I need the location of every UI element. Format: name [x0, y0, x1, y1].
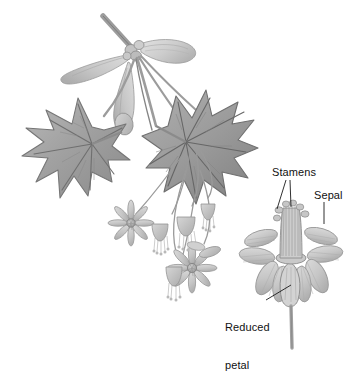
- bud-3-body: [201, 204, 215, 220]
- label-stamens: Stamens: [272, 166, 316, 179]
- bud-2-body: [177, 217, 195, 236]
- bud-4-anthers: [167, 296, 182, 302]
- drooping-bud-1: [152, 224, 170, 256]
- open-flower-left: [108, 200, 154, 246]
- label-reduced-petal-line1: Reduced: [225, 321, 270, 334]
- seed-knob-d: [123, 52, 131, 60]
- stem-branch-4: [136, 59, 152, 130]
- bud-1-body: [152, 224, 168, 241]
- main-stem-shade: [103, 16, 132, 48]
- label-reduced-petal-line2: petal: [225, 359, 270, 372]
- samara-wing-right: [140, 40, 196, 64]
- label-reduced-petal: Reduced petal: [225, 296, 270, 375]
- label-sepal: Sepal: [314, 189, 343, 202]
- seed-knob-b: [134, 41, 144, 50]
- sepal-upper-right: [303, 224, 340, 248]
